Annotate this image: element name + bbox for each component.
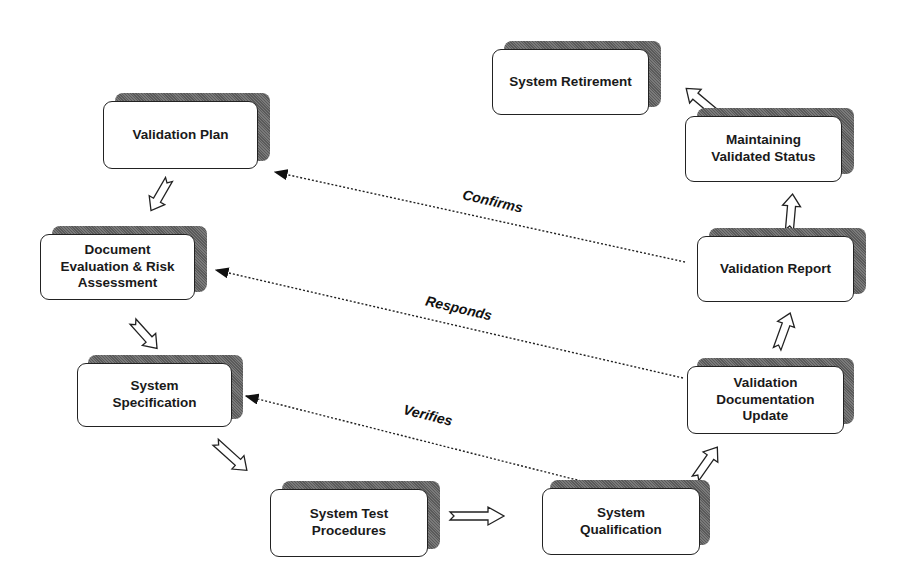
responds-link [216,270,683,378]
block-arrow-icon [143,175,177,215]
block-arrow-icon [126,316,163,355]
node-label: Document Evaluation & Risk Assessment [40,234,195,300]
block-arrow-icon [688,442,725,483]
link-label-confirms: Confirms [461,186,524,215]
block-arrow-icon [450,507,504,525]
link-label-verifies: Verifies [402,401,454,429]
node-label: Validation Documentation Update [687,366,844,434]
block-arrow-icon [780,193,801,230]
block-arrow-icon [210,436,253,477]
node-label: System Retirement [492,49,649,115]
node-label: Maintaining Validated Status [685,116,842,182]
node-label: Validation Report [697,236,854,302]
node-label: System Qualification [542,488,700,555]
node-label: System Test Procedures [270,489,428,557]
validation-lifecycle-diagram: Validation Plan Document Evaluation & Ri… [0,0,902,588]
link-label-responds: Responds [424,293,494,324]
node-label: Validation Plan [103,101,258,169]
block-arrow-icon [769,310,799,352]
node-label: System Specification [77,363,232,427]
confirms-link [275,172,685,262]
